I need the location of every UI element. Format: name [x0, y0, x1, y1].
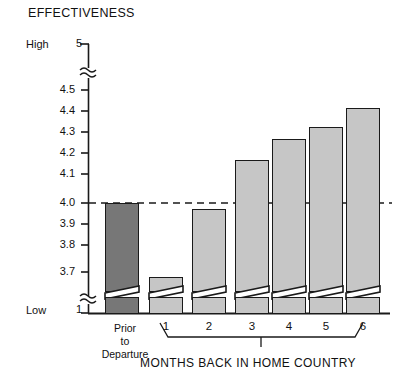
- prior-label-line-1: Prior: [94, 322, 156, 335]
- bar-month-6: [346, 108, 380, 292]
- x-tick-label-6: 6: [351, 320, 375, 332]
- x-tick-label-4: 4: [277, 320, 301, 332]
- y-tick-label-4-0: 4.0: [41, 196, 75, 208]
- y-tick-label-4-2: 4.2: [41, 146, 75, 158]
- bar-stub-month-2: [192, 297, 226, 314]
- axis-break-upper-icon2: [80, 73, 96, 77]
- bar-stub-month-1: [149, 297, 183, 314]
- bar-stub-month-6: [346, 297, 380, 314]
- y-tick-label-5: 5: [48, 37, 82, 49]
- bar-stub-prior-to-departure: [105, 297, 139, 314]
- x-tick-label-2: 2: [197, 320, 221, 332]
- bar-month-1: [149, 277, 183, 292]
- prior-label-line-2: to: [94, 335, 156, 348]
- y-tick-label-4-5: 4.5: [41, 83, 75, 95]
- y-tick-label-4-1: 4.1: [41, 167, 75, 179]
- chart-root: EFFECTIVENESS High Low: [0, 0, 404, 381]
- y-tick-label-1: 1: [48, 303, 82, 315]
- y-tick-label-3-9: 3.9: [41, 217, 75, 229]
- axis-break-upper-icon: [80, 68, 96, 72]
- x-tick-label-1: 1: [154, 320, 178, 332]
- bar-stub-month-3: [235, 297, 269, 314]
- bar-month-4: [272, 139, 306, 292]
- bar-stub-month-5: [309, 297, 343, 314]
- y-tick-label-3-7: 3.7: [41, 265, 75, 277]
- x-tick-label-3: 3: [240, 320, 264, 332]
- y-tick-label-4-3: 4.3: [41, 125, 75, 137]
- bar-month-2: [192, 209, 226, 292]
- axis-break-lower-icon2: [80, 299, 96, 303]
- bar-month-5: [309, 127, 343, 292]
- y-tick-label-4-4: 4.4: [41, 104, 75, 116]
- x-axis-group-label-months: MONTHS BACK IN HOME COUNTRY: [140, 356, 356, 370]
- x-tick-label-5: 5: [314, 320, 338, 332]
- y-tick-label-3-8: 3.8: [41, 238, 75, 250]
- bar-month-3: [235, 160, 269, 292]
- bar-stub-month-4: [272, 297, 306, 314]
- bar-prior-to-departure: [105, 203, 139, 292]
